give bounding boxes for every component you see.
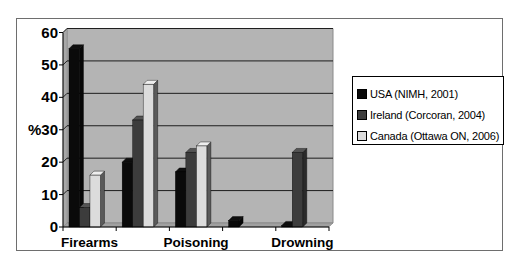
legend-label: USA (NIMH, 2001) (370, 88, 458, 100)
bar (196, 142, 211, 227)
bar (69, 45, 84, 227)
y-axis-label: % (28, 121, 41, 138)
bar (143, 80, 158, 227)
bar (90, 171, 105, 227)
x-category-label: Firearms (61, 235, 118, 250)
legend-item-canada: Canada (Ottawa ON, 2006) (357, 125, 503, 146)
y-tick-label: 0 (50, 218, 58, 235)
legend-item-ireland: Ireland (Corcoran, 2004) (357, 104, 503, 125)
y-tick-label: 30 (41, 121, 58, 138)
legend-swatch-usa (357, 89, 367, 99)
legend-item-usa: USA (NIMH, 2001) (357, 83, 503, 104)
bar (292, 148, 307, 227)
y-tick-label: 20 (41, 153, 58, 170)
legend-label: Ireland (Corcoran, 2004) (370, 109, 485, 121)
bar (229, 217, 244, 227)
y-tick-label: 10 (41, 186, 58, 203)
y-tick-label: 50 (41, 56, 58, 73)
y-tick-label: 60 (41, 24, 58, 41)
y-tick-label: 40 (41, 88, 58, 105)
x-category-label: Drowning (271, 235, 333, 250)
legend: USA (NIMH, 2001) Ireland (Corcoran, 2004… (352, 76, 504, 145)
x-category-label: Poisoning (163, 235, 228, 250)
legend-label: Canada (Ottawa ON, 2006) (370, 130, 499, 142)
legend-swatch-ireland (357, 110, 367, 120)
legend-swatch-canada (357, 131, 367, 141)
